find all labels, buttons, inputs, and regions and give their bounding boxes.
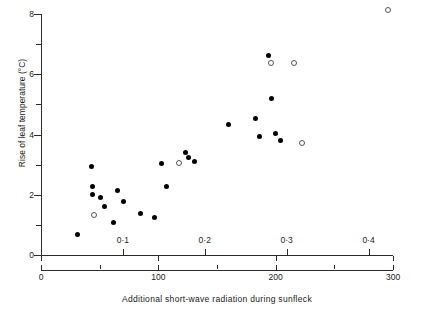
data-point-filled: [121, 199, 126, 204]
data-point-filled: [90, 184, 95, 189]
y-axis-title: Rise of leaf temperature (°C): [17, 43, 27, 183]
data-point-filled: [138, 211, 143, 216]
x-tick-wm2-lower: [276, 265, 277, 270]
y-tick-major: [34, 14, 41, 15]
data-point-filled: [111, 220, 116, 225]
data-point-open: [385, 7, 391, 13]
x-tick-cal: [205, 249, 206, 255]
y-tick-minor: [36, 44, 41, 45]
y-axis-line: [41, 14, 42, 256]
x-tick-label-cal: 0·1: [109, 236, 137, 245]
x-tick-label-cal: 0·3: [273, 236, 301, 245]
x-tick-wm2: [41, 256, 42, 261]
data-point-filled: [278, 138, 283, 143]
y-tick-minor: [36, 104, 41, 105]
data-point-filled: [257, 134, 262, 139]
x-tick-cal: [369, 249, 370, 255]
x-tick-cal: [123, 249, 124, 255]
y-tick-major: [34, 74, 41, 75]
data-point-filled: [159, 161, 164, 166]
x-tick-wm2-lower: [158, 265, 159, 270]
y-tick-major: [34, 135, 41, 136]
x-tick-wm2-minor: [334, 265, 335, 269]
x-tick-wm2-lower: [41, 265, 42, 270]
data-point-filled: [192, 159, 197, 164]
data-point-filled: [90, 192, 95, 197]
x-tick-label-cal: 0·4: [355, 236, 383, 245]
data-point-filled: [164, 184, 169, 189]
data-point-filled: [253, 116, 258, 121]
data-point-filled: [89, 164, 94, 169]
x-tick-label-wm2: 300: [379, 273, 407, 282]
x-tick-cal: [287, 249, 288, 255]
data-point-filled: [226, 122, 231, 127]
y-tick-label: 0: [8, 251, 34, 259]
x-tick-label-cal: 0·2: [191, 236, 219, 245]
data-point-filled: [102, 204, 107, 209]
y-tick-major: [34, 195, 41, 196]
data-point-open: [268, 60, 274, 66]
y-tick-label: 2: [8, 191, 34, 199]
data-point-filled: [75, 232, 80, 237]
data-point-open: [291, 60, 297, 66]
data-point-open: [176, 160, 182, 166]
data-point-filled: [98, 195, 103, 200]
x-tick-label-wm2: 0: [27, 273, 55, 282]
data-point-filled: [266, 53, 271, 58]
x-tick-wm2: [158, 256, 159, 261]
data-point-filled: [115, 188, 120, 193]
data-point-filled: [183, 150, 188, 155]
y-tick-label: 8: [8, 10, 34, 18]
x-tick-wm2-minor: [100, 265, 101, 269]
data-point-filled: [186, 155, 191, 160]
y-tick-major: [34, 255, 41, 256]
x-tick-wm2: [276, 256, 277, 261]
data-point-open: [91, 212, 97, 218]
x-tick-wm2-minor: [217, 265, 218, 269]
x-tick-wm2-lower: [393, 265, 394, 270]
x-tick-label-wm2: 100: [144, 273, 172, 282]
data-point-filled: [152, 215, 157, 220]
x-axis-line-cal: [41, 255, 393, 256]
y-tick-minor: [36, 165, 41, 166]
data-point-open: [299, 140, 305, 146]
data-point-filled: [269, 96, 274, 101]
x-tick-label-wm2: 200: [262, 273, 290, 282]
scatter-plot-figure: 02468 01002003000·10·20·30·40·5 cal cm-2…: [0, 0, 422, 318]
x-axis-line-wm2: [41, 270, 393, 271]
y-tick-minor: [36, 225, 41, 226]
data-point-filled: [273, 131, 278, 136]
x-axis-title: Additional short-wave radiation during s…: [41, 294, 393, 304]
x-tick-wm2: [393, 256, 394, 261]
